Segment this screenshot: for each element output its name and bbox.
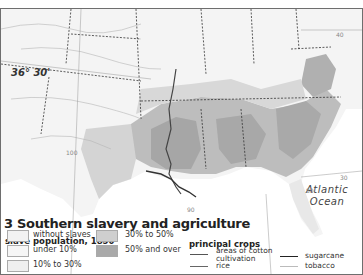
- legend-label-50-and-over: 50% and over: [125, 245, 181, 254]
- lon-80-label: 80: [306, 187, 314, 194]
- crop-label-sugarcane: sugarcane: [305, 252, 344, 260]
- swatch-under-10: [7, 245, 29, 257]
- cotton-line: [190, 254, 208, 255]
- lon-90-label: 90: [187, 206, 195, 213]
- tobacco-line: [280, 266, 298, 267]
- map-figure: 36° 30' Atlantic Ocean 40 30 80 90 100 3…: [0, 0, 363, 275]
- legend-label-under-10: under 10%: [33, 245, 77, 254]
- sugarcane-line: [280, 256, 298, 257]
- swatch-50-and-over: [96, 245, 118, 257]
- map-title: 3 Southern slavery and agriculture: [4, 216, 250, 231]
- lat-40-label: 40: [336, 31, 344, 38]
- crop-label-rice: rice: [216, 262, 230, 270]
- swatch-10-to-30: [7, 260, 29, 272]
- rice-line: [190, 266, 208, 267]
- parallel-label: 36° 30': [11, 67, 50, 78]
- swatch-without-slaves: [7, 230, 29, 242]
- crop-label-tobacco: tobacco: [305, 262, 335, 270]
- swatch-30-to-50: [96, 230, 118, 242]
- lat-30-label: 30: [340, 174, 348, 181]
- legend-label-10-to-30: 10% to 30%: [33, 260, 82, 269]
- legend-label-30-to-50: 30% to 50%: [125, 230, 174, 239]
- ocean-label-line2: Ocean: [306, 196, 348, 208]
- lon-100-label: 100: [66, 149, 77, 156]
- legend-label-without-slaves: without slaves: [33, 230, 91, 239]
